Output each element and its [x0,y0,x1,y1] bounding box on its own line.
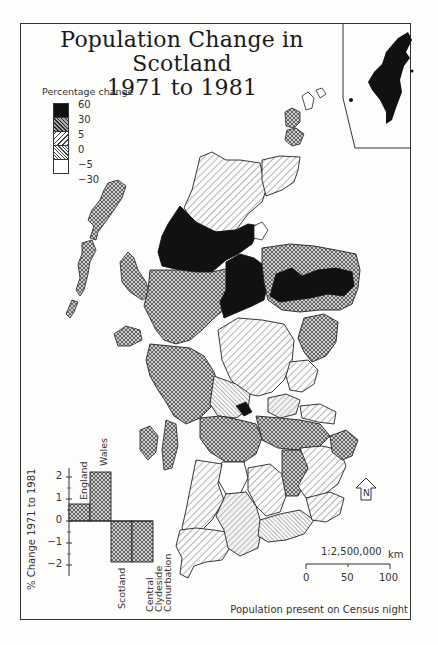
y-tick-2: 2 [46,470,62,481]
region-roxburgh [306,492,344,522]
region-argyll [146,344,220,424]
legend-label-minus30: −30 [78,174,99,189]
y-tick-1: 1 [46,492,62,503]
swatch-minus5 [53,159,69,174]
region-skye [120,252,150,300]
region-inverness-black [220,254,268,318]
region-clydeside [200,416,262,462]
region-ayrshire [182,460,224,540]
legend-label-0: 0 [78,144,99,159]
y-tick-minus2: −2 [46,558,62,569]
legend-swatches [53,104,70,174]
legend-label-30: 30 [78,114,99,129]
swatch-0 [53,145,69,160]
category-wales: Wales [99,438,108,466]
scale-unit: km [388,549,404,560]
footnote: Population present on Census night [230,604,408,615]
category-england: England [79,461,88,500]
region-islay [140,426,158,460]
legend-labels: 60 30 5 0 −5 −30 [78,99,99,189]
bar-wales [90,472,111,521]
legend-label-5: 5 [78,129,99,144]
region-ayr-white [218,462,248,494]
region-angus [286,360,318,392]
category-central-clydeside: Central Clydeside Conurbation [145,552,172,612]
region-banff-white [254,222,268,240]
scale-tick-100: 100 [379,572,398,583]
region-fife [268,394,300,418]
region-caithness [262,156,300,196]
bar-scotland [111,521,132,562]
region-galloway [176,528,230,578]
legend-label-minus5: −5 [78,159,99,174]
chart-y-axis-label: % Change 1971 to 1981 [26,469,37,590]
swatch-30 [53,117,69,132]
y-tick-minus1: −1 [46,536,62,547]
y-tick-0: 0 [46,514,62,525]
category-scotland: Scotland [117,568,126,609]
region-sutherland-north [184,152,266,232]
scale-bar [306,564,390,569]
region-aberdeen [298,314,338,362]
shetland-inset [343,23,414,148]
swatch-60 [53,103,69,118]
scale-ratio: 1:2,500,000 [321,546,382,557]
legend-label-60: 60 [78,99,99,114]
scale-tick-0: 0 [303,572,309,583]
outer-hebrides [66,180,126,318]
scale-tick-50: 50 [341,572,354,583]
region-kintyre [162,420,178,470]
swatch-5 [53,131,69,146]
orkney-islands [285,88,326,146]
region-mull [114,326,142,346]
north-label: N [363,488,370,498]
bar-england [69,504,90,521]
category-central-clydeside-text: Central Clydeside Conurbation [145,552,172,612]
